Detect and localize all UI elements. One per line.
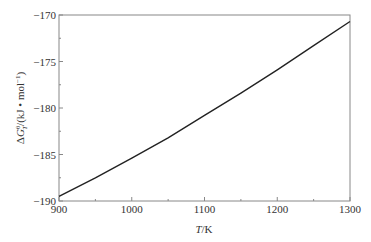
x-tick-label: 1100 [194, 203, 216, 215]
plot-frame [59, 15, 350, 201]
x-axis-label: T/K [195, 223, 212, 235]
chart: 9001000110012001300 −190−185−180−175−170… [0, 0, 371, 242]
y-tick-label: −170 [33, 9, 56, 21]
y-tick-label: −180 [33, 102, 56, 114]
y-axis-label: ΔGθT/(kJ • mol−1) [14, 71, 29, 144]
x-tick-label: 1200 [266, 203, 289, 215]
x-axis-ticks: 9001000110012001300 [51, 197, 362, 215]
x-tick-label: 1000 [121, 203, 144, 215]
data-line [59, 22, 350, 197]
x-tick-label: 1300 [339, 203, 362, 215]
y-tick-label: −185 [33, 149, 56, 161]
plot-border [59, 15, 350, 201]
y-tick-label: −190 [33, 195, 56, 207]
y-tick-label: −175 [33, 56, 56, 68]
series-line [59, 22, 350, 197]
